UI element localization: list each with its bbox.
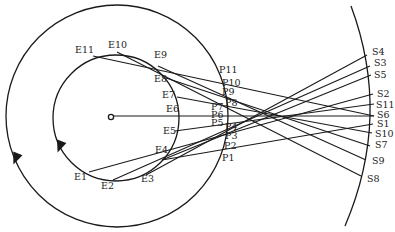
label-p2: P2	[224, 140, 236, 151]
e-point-labels: E1E2E3E4E5E6E7E8E9E10E11	[74, 39, 179, 191]
label-s4: S4	[372, 46, 385, 57]
label-s7: S7	[375, 139, 388, 150]
center-point	[108, 114, 113, 119]
p-point-labels: P11P10P9P8P7P6P5P4P3P2P1	[211, 64, 240, 163]
label-s2: S2	[377, 88, 390, 99]
label-e2: E2	[101, 180, 114, 191]
label-p8: P8	[225, 97, 237, 108]
label-e4: E4	[155, 144, 168, 155]
label-s3: S3	[374, 57, 387, 68]
label-e1: E1	[74, 171, 87, 182]
ray-e4-s1	[162, 124, 373, 160]
label-s5: S5	[374, 69, 387, 80]
ray-diagram: E1E2E3E4E5E6E7E8E9E10E11 P11P10P9P8P7P6P…	[0, 0, 395, 232]
label-e3: E3	[141, 173, 154, 184]
label-p9: P9	[222, 86, 234, 97]
outer-circle-arrow-icon	[9, 151, 23, 166]
label-s10: S10	[375, 128, 394, 139]
label-p1: P1	[222, 152, 234, 163]
label-p11: P11	[219, 64, 237, 75]
label-s9: S9	[372, 155, 385, 166]
label-p5: P5	[211, 117, 223, 128]
label-e10: E10	[108, 39, 127, 50]
label-e11: E11	[75, 44, 94, 55]
label-e8: E8	[154, 73, 167, 84]
ray-e10-s8	[117, 52, 361, 176]
inner-circle-arrow-icon	[53, 140, 67, 155]
label-s8: S8	[367, 173, 380, 184]
label-e6: E6	[166, 103, 179, 114]
ray-e4-s5	[162, 75, 371, 160]
direction-arrows	[9, 140, 67, 167]
label-e7: E7	[162, 89, 175, 100]
label-e5: E5	[163, 125, 176, 136]
label-e9: E9	[154, 49, 167, 60]
